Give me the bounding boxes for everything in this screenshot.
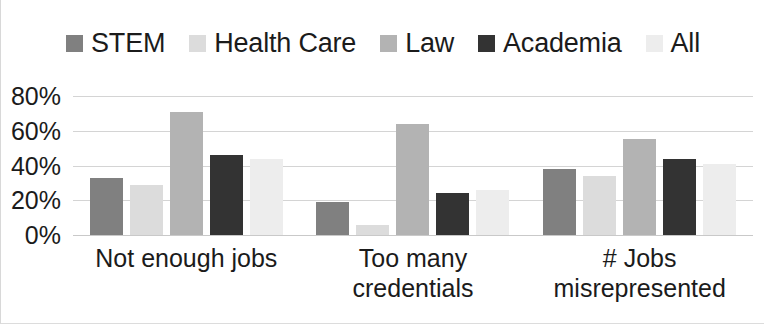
y-axis-tick-label: 60% [11, 118, 61, 143]
plot-area [73, 96, 753, 235]
bar[interactable] [356, 225, 389, 235]
legend-label: Academia [503, 30, 621, 57]
bar[interactable] [130, 185, 163, 235]
bar[interactable] [623, 139, 656, 235]
x-axis-category-label: # Jobsmisrepresented [526, 243, 753, 303]
y-axis-tick-label: 40% [11, 153, 61, 178]
legend-label: Health Care [214, 30, 356, 57]
bar[interactable] [436, 193, 469, 235]
legend-label: STEM [91, 30, 165, 57]
bar[interactable] [703, 164, 736, 235]
bar[interactable] [170, 112, 203, 235]
legend-entry-stem[interactable]: STEM [66, 30, 165, 57]
x-axis-category-label-line: misrepresented [526, 273, 753, 303]
axis-baseline [73, 235, 753, 236]
legend-swatch-icon [66, 35, 83, 52]
x-axis-category-label: Too manycredentials [300, 243, 527, 303]
legend-entry-all[interactable]: All [646, 30, 700, 57]
bar[interactable] [90, 178, 123, 235]
legend-label: All [671, 30, 700, 57]
bar-group [526, 96, 753, 235]
y-axis-tick-label: 0% [25, 223, 61, 248]
chart-legend: STEMHealth CareLawAcademiaAll [1, 22, 764, 64]
bar-chart: STEMHealth CareLawAcademiaAll 80%60%40%2… [0, 0, 764, 324]
legend-entry-health-care[interactable]: Health Care [189, 30, 356, 57]
x-axis-category-label: Not enough jobs [73, 243, 300, 273]
y-axis-tick-label: 20% [11, 188, 61, 213]
bar[interactable] [396, 124, 429, 235]
legend-swatch-icon [189, 35, 206, 52]
bar[interactable] [476, 190, 509, 235]
bar-group [73, 96, 300, 235]
bar[interactable] [583, 176, 616, 235]
x-axis-category-label-line: # Jobs [526, 243, 753, 273]
legend-swatch-icon [380, 35, 397, 52]
x-axis-category-label-line: credentials [300, 273, 527, 303]
bar[interactable] [663, 159, 696, 235]
legend-entry-academia[interactable]: Academia [478, 30, 621, 57]
bar[interactable] [210, 155, 243, 235]
bar[interactable] [250, 159, 283, 235]
bar-group [300, 96, 527, 235]
bar[interactable] [316, 202, 349, 235]
x-axis-category-label-line: Not enough jobs [73, 243, 300, 273]
legend-entry-law[interactable]: Law [380, 30, 454, 57]
legend-swatch-icon [646, 35, 663, 52]
y-axis: 80%60%40%20%0% [1, 96, 67, 235]
x-axis-category-label-line: Too many [300, 243, 527, 273]
legend-label: Law [405, 30, 454, 57]
legend-swatch-icon [478, 35, 495, 52]
y-axis-tick-label: 80% [11, 84, 61, 109]
bar[interactable] [543, 169, 576, 235]
x-axis: Not enough jobsToo manycredentials# Jobs… [73, 243, 753, 313]
